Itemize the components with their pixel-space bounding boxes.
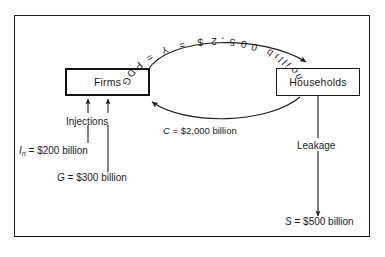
leakage-s-symbol: S [285, 216, 292, 227]
injection-g-equals: = [68, 172, 74, 183]
consumption-amount: $2,000 billion [181, 125, 237, 136]
injection-g-label: G = $300 billion [57, 173, 127, 183]
injection-g-amount: $300 billion [76, 172, 127, 183]
circular-flow-diagram: Firms Households GDP = Y = $2,500 billio… [0, 0, 385, 257]
leakage-s-label: S = $500 billion [285, 217, 354, 227]
leakage-s-equals: = [294, 216, 300, 227]
consumption-symbol: C [163, 125, 170, 136]
injection-in-amount: $200 billion [37, 145, 88, 156]
leakage-s-amount: $500 billion [303, 216, 354, 227]
injection-g-symbol: G [57, 172, 65, 183]
consumption-equals: = [173, 125, 179, 136]
injection-in-subscript: n [22, 149, 26, 158]
injections-label: Injections [66, 117, 108, 127]
injection-in-label: In = $200 billion [19, 146, 88, 157]
leakage-label: Leakage [297, 141, 335, 151]
consumption-flow-label: C = $2,000 billion [163, 126, 237, 136]
injection-in-equals: = [29, 145, 35, 156]
